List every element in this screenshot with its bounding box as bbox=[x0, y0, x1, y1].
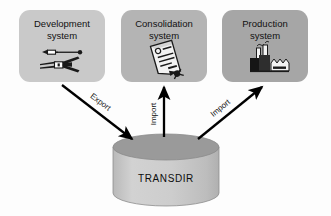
system-box-consolidation[interactable]: Consolidation system bbox=[121, 10, 207, 83]
system-box-production[interactable]: Production system bbox=[222, 10, 308, 82]
consolidation-title-line1: Consolidation bbox=[135, 18, 193, 29]
import-right-arrow-line bbox=[198, 87, 262, 139]
flow-arrow-development-export: Export bbox=[62, 85, 132, 139]
production-title-line2: system bbox=[250, 30, 280, 41]
flow-arrow-production-import: Import bbox=[198, 87, 262, 139]
production-title-line1: Production bbox=[242, 18, 287, 29]
export-arrow-label: Export bbox=[89, 91, 113, 113]
development-title-line2: system bbox=[47, 30, 77, 41]
import-right-arrow-label: Import bbox=[209, 97, 233, 119]
consolidation-title-line2: system bbox=[149, 30, 179, 41]
system-box-development[interactable]: Development system bbox=[19, 10, 105, 82]
development-title-line1: Development bbox=[34, 18, 90, 29]
transdir-label: TRANSDIR bbox=[138, 173, 194, 184]
import-center-arrow-label: Import bbox=[149, 102, 158, 125]
transport-directory-diagram: Development system bbox=[0, 0, 331, 216]
flow-arrow-consolidation-import: Import bbox=[149, 87, 164, 137]
transdir-repository[interactable]: TRANSDIR bbox=[113, 134, 219, 206]
diagram-canvas: Development system bbox=[0, 0, 331, 216]
